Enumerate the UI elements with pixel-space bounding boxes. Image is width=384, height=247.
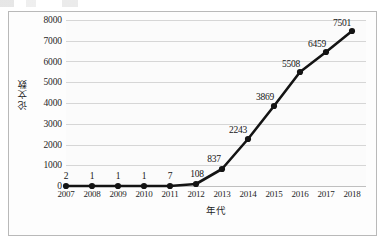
data-point-marker [245, 136, 251, 142]
data-label: 5508 [271, 60, 311, 70]
data-point-marker [297, 69, 303, 75]
y-axis-tick-label: 6000 [10, 58, 62, 68]
figure-container: 论文数 8000 7000 6000 5000 4000 3000 2000 1… [0, 0, 384, 247]
x-axis-title: 年代 [66, 205, 366, 216]
series-markers [63, 28, 355, 189]
data-point-marker [349, 28, 355, 34]
y-axis-tick-label: 7000 [10, 37, 62, 47]
data-point-marker [219, 166, 225, 172]
data-label: 3869 [245, 93, 285, 103]
y-axis-tick-label: 1000 [10, 161, 62, 171]
data-label: 108 [177, 170, 217, 180]
data-point-marker [193, 181, 199, 187]
data-label: 6459 [297, 40, 337, 50]
y-axis-tick-label: 2000 [10, 141, 62, 151]
y-axis-tick-label: 8000 [10, 16, 62, 26]
data-label: 7501 [322, 19, 362, 29]
y-axis-tick-label: 4000 [10, 99, 62, 109]
scan-artifact [0, 0, 384, 7]
data-label: 837 [194, 155, 234, 165]
y-axis-tick-label: 5000 [10, 78, 62, 88]
data-label: 2243 [218, 126, 258, 136]
y-axis-tick-label: 3000 [10, 120, 62, 130]
data-point-marker [323, 49, 329, 55]
x-axis-tick-label: 2018 [337, 190, 367, 199]
data-point-marker [271, 103, 277, 109]
